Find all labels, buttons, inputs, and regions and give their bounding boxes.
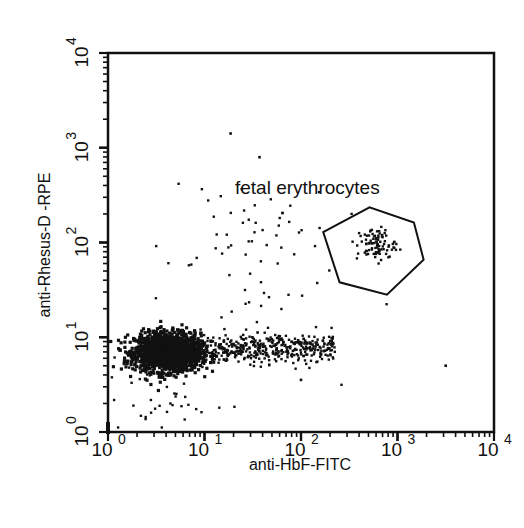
x-axis-title: anti-HbF-FITC	[249, 456, 351, 473]
event-dot	[315, 326, 317, 328]
event-dot	[260, 366, 262, 368]
event-dot	[149, 383, 152, 386]
event-dot	[140, 360, 143, 363]
event-dot	[204, 342, 206, 344]
event-dot	[365, 239, 367, 241]
svg-text:10: 10	[71, 236, 92, 257]
svg-text:10: 10	[71, 46, 92, 67]
event-dot	[323, 337, 325, 339]
svg-text:0: 0	[63, 416, 79, 424]
event-dot	[331, 345, 333, 347]
event-dot	[386, 249, 388, 251]
event-dot	[288, 346, 290, 348]
event-dot	[123, 346, 126, 349]
event-dot	[248, 240, 250, 242]
svg-text:1: 1	[215, 431, 223, 447]
event-dot	[278, 341, 280, 343]
event-dot	[286, 356, 288, 358]
event-dot	[256, 354, 258, 356]
y-tick-label: 103	[63, 132, 92, 163]
event-dot	[183, 356, 186, 359]
event-dot	[265, 349, 267, 351]
event-dot	[123, 341, 126, 344]
event-dot	[328, 358, 330, 360]
event-dot	[266, 354, 268, 356]
event-dot	[145, 379, 148, 382]
event-dot	[266, 244, 268, 246]
event-dot	[280, 344, 282, 346]
event-dot	[272, 339, 274, 341]
event-dot	[188, 331, 191, 334]
event-dot	[133, 339, 136, 342]
event-dot	[142, 368, 145, 371]
event-dot	[229, 132, 232, 135]
event-dot	[382, 245, 384, 247]
event-dot	[314, 348, 316, 350]
event-dot	[292, 362, 294, 364]
event-dot	[125, 360, 127, 362]
event-dot	[226, 358, 228, 360]
event-dot	[190, 338, 193, 341]
event-dot	[197, 344, 199, 346]
event-dot	[305, 348, 307, 350]
event-dot	[113, 356, 115, 358]
event-dot	[230, 350, 232, 352]
event-dot	[153, 347, 156, 350]
event-dot	[219, 347, 221, 349]
event-dot	[176, 365, 179, 368]
event-dot	[176, 335, 179, 338]
event-dot	[111, 376, 113, 378]
event-dot	[154, 337, 157, 340]
event-dot	[214, 344, 216, 346]
event-dot	[281, 353, 283, 355]
event-dot	[282, 341, 284, 343]
event-dot	[300, 351, 302, 353]
event-dot	[300, 229, 302, 231]
event-dot	[329, 353, 331, 355]
gate-label: fetal erythrocytes	[235, 177, 380, 198]
event-dot	[187, 404, 189, 406]
event-dot	[164, 368, 167, 371]
fetal-erythrocyte-gate[interactable]	[323, 207, 423, 294]
event-dot	[236, 347, 238, 349]
event-dot	[228, 353, 230, 355]
event-dot	[310, 360, 312, 362]
event-dot	[200, 411, 202, 413]
event-dot	[370, 240, 372, 242]
event-dot	[275, 234, 277, 236]
event-dot	[263, 357, 265, 359]
event-dot	[167, 262, 169, 264]
event-dot	[392, 246, 394, 248]
event-dot	[280, 358, 282, 360]
event-dot	[211, 370, 214, 373]
event-dot	[224, 334, 226, 336]
event-dot	[255, 356, 257, 358]
event-dot	[238, 346, 240, 348]
event-dot	[297, 354, 299, 356]
event-dot	[365, 250, 367, 252]
event-dot	[270, 346, 272, 348]
event-dot	[188, 369, 191, 372]
event-dot	[216, 233, 218, 235]
event-dot	[213, 216, 215, 218]
event-dot	[175, 370, 178, 373]
event-dot	[332, 357, 334, 359]
event-dot	[127, 352, 130, 355]
event-dot	[356, 257, 358, 259]
event-dot	[147, 361, 149, 363]
event-dot	[322, 345, 324, 347]
event-dot	[267, 338, 269, 340]
event-dot	[261, 229, 263, 231]
event-dot	[323, 350, 325, 352]
event-dot	[205, 367, 208, 370]
event-dot	[395, 249, 397, 251]
event-dot	[147, 328, 150, 331]
event-dot	[214, 349, 216, 351]
event-dot	[388, 244, 390, 246]
svg-text:1: 1	[63, 321, 79, 329]
event-dot	[190, 263, 192, 265]
event-dot	[194, 347, 196, 349]
event-dot	[444, 364, 447, 367]
event-dot	[368, 242, 370, 244]
event-dot	[316, 338, 318, 340]
